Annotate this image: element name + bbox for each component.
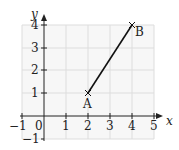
- point-b-label: B: [135, 25, 144, 39]
- y-tick-label: 1: [31, 86, 39, 100]
- y-axis-arrow-icon: [41, 14, 47, 21]
- x-tick-label: 5: [150, 119, 158, 133]
- origin-label: 0: [35, 119, 43, 133]
- y-tick-label: 3: [31, 41, 39, 55]
- x-tick-label: 4: [128, 119, 136, 133]
- coordinate-plane: A B y x 0 −1 1 2 3 4 5 1 2 3 4 −1: [0, 0, 179, 150]
- point-a-label: A: [82, 97, 92, 111]
- y-tick-label: 2: [31, 63, 39, 77]
- y-tick-label: 4: [31, 18, 39, 32]
- x-tick-label: −1: [9, 119, 27, 133]
- y-tick-label: −1: [22, 132, 40, 146]
- x-tick-label: 3: [106, 119, 114, 133]
- x-tick-label: 2: [84, 119, 92, 133]
- x-axis-label: x: [166, 114, 173, 128]
- x-tick-label: 1: [62, 119, 70, 133]
